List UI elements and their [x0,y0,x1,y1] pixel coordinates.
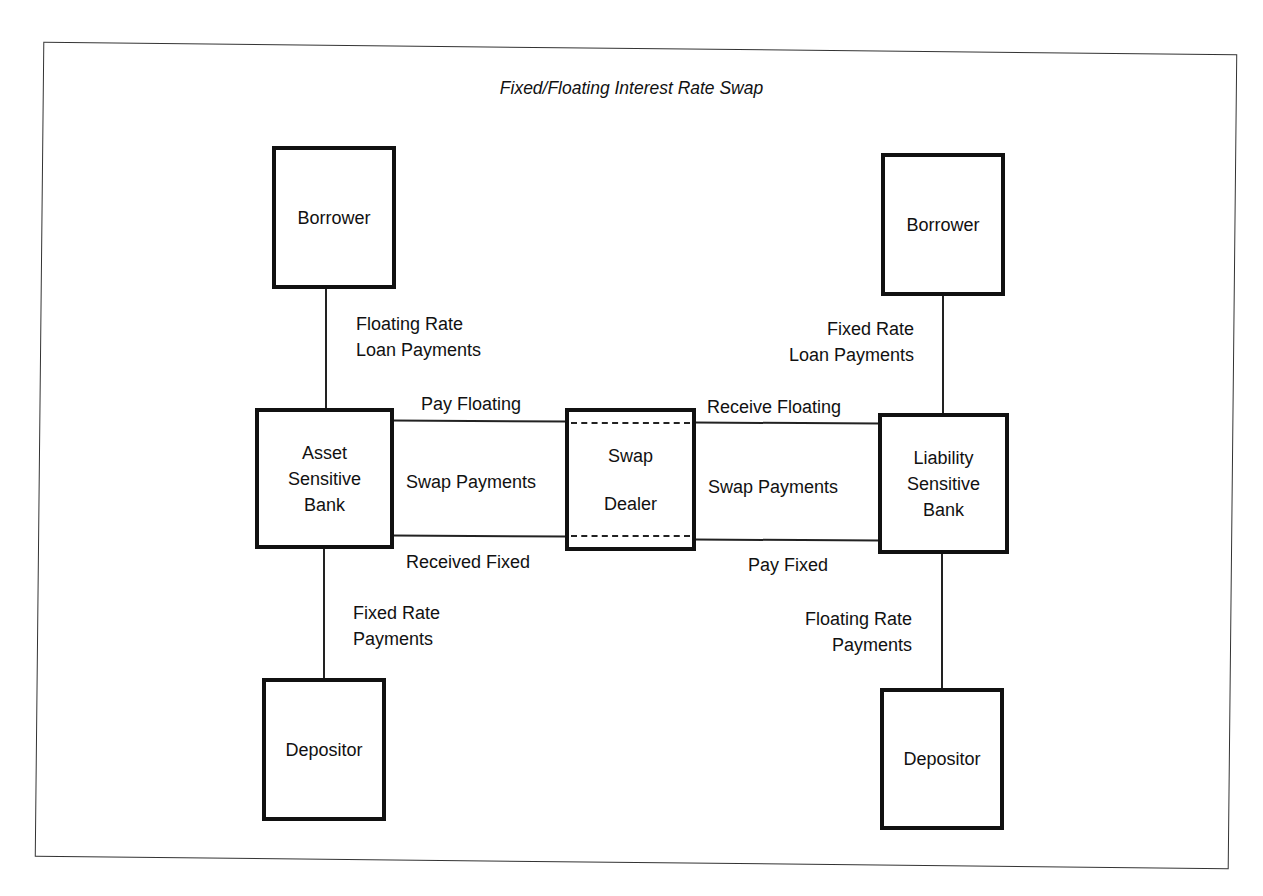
label-pay-floating: Pay Floating [421,391,521,417]
node-left-depositor: Depositor [262,678,386,821]
node-label-line: Dealer [604,491,657,517]
label-fixed-rate-loan-payments: Fixed Rate Loan Payments [760,316,914,368]
label-floating-rate-loan-payments: Floating Rate Loan Payments [356,311,481,363]
connector-right-borrower-bank [942,295,944,415]
node-label: Borrower [906,212,979,238]
label-fixed-rate-payments: Fixed Rate Payments [353,600,440,652]
node-label-line: Liability [907,445,980,471]
node-left-borrower: Borrower [272,146,396,289]
dealer-dashed-bottom [571,535,690,537]
node-label: Borrower [297,205,370,231]
node-right-depositor: Depositor [880,688,1004,830]
node-right-borrower: Borrower [881,153,1005,296]
node-label: Depositor [903,746,980,772]
diagram-title: Fixed/Floating Interest Rate Swap [51,77,1213,99]
node-label-line: Swap [604,443,657,469]
label-swap-payments-left: Swap Payments [406,469,536,495]
connector-right-bank-depositor [941,553,943,690]
node-swap-dealer: Swap Dealer [565,408,696,551]
node-label-line: Sensitive [907,471,980,497]
node-label-line: Asset [288,440,361,466]
label-pay-fixed: Pay Fixed [748,552,828,578]
connector-left-bank-depositor [323,548,325,680]
node-liability-sensitive-bank: Liability Sensitive Bank [878,413,1009,554]
node-label-line: Bank [907,497,980,523]
label-receive-floating: Receive Floating [707,394,841,420]
connector-left-borrower-bank [325,288,327,410]
label-received-fixed: Received Fixed [406,549,530,575]
node-label-line: Bank [288,492,361,518]
node-label: Depositor [285,737,362,763]
label-floating-rate-payments: Floating Rate Payments [760,606,912,658]
label-swap-payments-right: Swap Payments [708,474,838,500]
node-label-line: Sensitive [288,466,361,492]
dealer-dashed-top [571,422,690,424]
node-asset-sensitive-bank: Asset Sensitive Bank [255,408,394,549]
